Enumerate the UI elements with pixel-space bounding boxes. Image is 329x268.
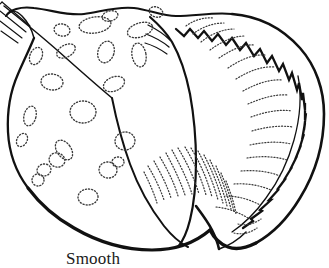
shell-drawing xyxy=(0,0,329,268)
shell-illustration-figure: Smooth xyxy=(0,0,329,268)
